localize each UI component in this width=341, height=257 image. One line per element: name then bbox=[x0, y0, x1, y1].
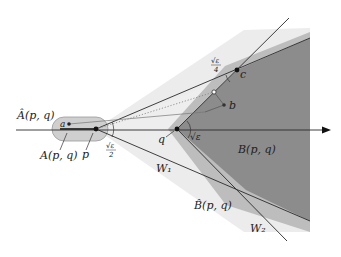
label-b: b bbox=[229, 99, 236, 112]
point-q bbox=[175, 127, 180, 132]
label-b-set: B(p, q) bbox=[237, 143, 276, 156]
point-a bbox=[67, 122, 71, 126]
label-angle-c-num: √ε bbox=[211, 57, 219, 65]
point-p bbox=[94, 127, 99, 132]
axis-arrowhead-icon bbox=[322, 127, 331, 134]
label-angle-p-den: 2 bbox=[108, 151, 114, 159]
open-point bbox=[212, 90, 216, 94]
label-a-set: A(p, q) bbox=[39, 149, 78, 162]
label-c: c bbox=[240, 68, 246, 81]
label-angle-c-den: 4 bbox=[213, 66, 218, 74]
label-a-point: a bbox=[60, 119, 65, 129]
label-angle-p-num: √ε bbox=[106, 142, 114, 150]
label-b-hat: B̂(p, q) bbox=[193, 199, 232, 212]
label-p: p bbox=[82, 148, 89, 161]
label-w1: W₁ bbox=[156, 162, 172, 175]
point-b bbox=[222, 103, 226, 107]
point-c bbox=[235, 68, 240, 73]
label-w2: W₂ bbox=[250, 222, 266, 235]
label-a-hat: Â(p, q) bbox=[16, 108, 55, 122]
label-angle-q: √ε bbox=[190, 132, 201, 142]
diagram-canvas: Â(p, q) a A(p, q) p √ε 2 q √ε √ε 4 c b B… bbox=[0, 0, 341, 257]
label-q: q bbox=[158, 133, 165, 146]
